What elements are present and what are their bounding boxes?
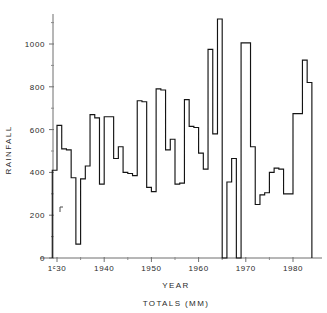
- y-tick-label: 0: [40, 254, 45, 263]
- x-axis-tick-labels: 1ᶜ3019401950196019701980: [48, 264, 303, 273]
- rainfall-series-line: [52, 19, 312, 258]
- x-tick-label: 1970: [236, 264, 256, 273]
- y-tick-label: 1000: [25, 40, 45, 49]
- x-tick-label: 1960: [188, 264, 208, 273]
- x-tick-label: 1940: [94, 264, 114, 273]
- chart-svg: 02004006008001000 1ᶜ30194019501960197019…: [0, 0, 327, 313]
- x-tick-label: 1ᶜ30: [48, 264, 67, 273]
- y-axis-tick-labels: 02004006008001000: [25, 40, 45, 263]
- y-tick-label: 400: [30, 168, 45, 177]
- x-tick-label: 1950: [141, 264, 161, 273]
- y-tick-label: 200: [30, 211, 45, 220]
- x-tick-label: 1980: [283, 264, 303, 273]
- y-axis-title: RAINFALL: [4, 126, 13, 175]
- rainfall-chart: 02004006008001000 1ᶜ30194019501960197019…: [0, 0, 327, 313]
- y-tick-label: 800: [30, 83, 45, 92]
- stray-ink-mark: [60, 207, 63, 212]
- y-tick-label: 600: [30, 126, 45, 135]
- chart-caption: TOTALS (MM): [143, 299, 210, 308]
- x-axis-title: YEAR: [162, 281, 189, 290]
